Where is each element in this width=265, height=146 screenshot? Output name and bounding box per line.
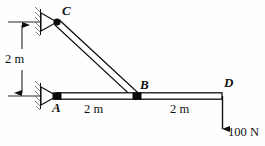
node-label-d: D — [224, 76, 233, 89]
joint-a-dot — [53, 92, 62, 100]
dimension-label-bd: 2 m — [170, 103, 189, 116]
load-label-100n: 100 N — [228, 126, 259, 139]
statics-figure: C A B D 2 m 2 m 2 m 100 N — [0, 0, 265, 146]
dimension-label-vertical: 2 m — [5, 53, 24, 66]
node-label-c: C — [62, 4, 71, 17]
node-label-b: B — [140, 78, 149, 91]
figure-canvas — [0, 0, 265, 146]
dimension-label-ab: 2 m — [84, 103, 103, 116]
node-label-a: A — [52, 101, 61, 114]
member-cb — [55, 20, 139, 99]
joint-c-dot — [53, 18, 60, 25]
joint-b-dot — [133, 92, 142, 100]
